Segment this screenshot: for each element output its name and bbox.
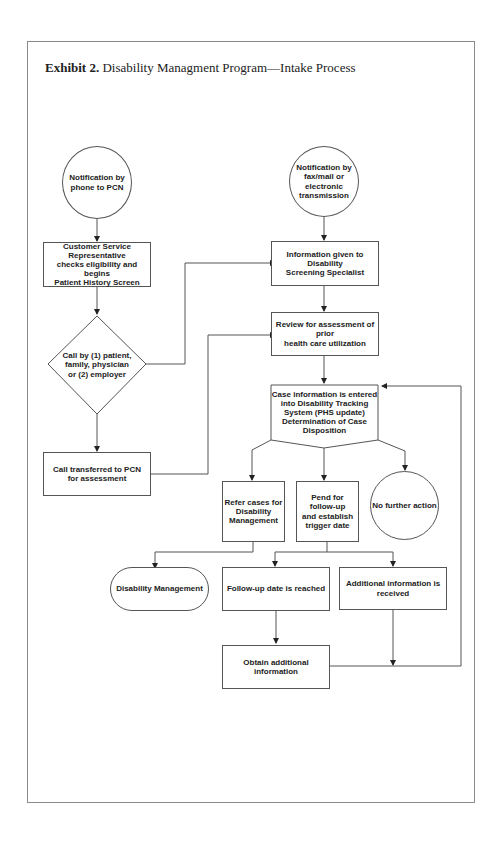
no-action-node: No further action [370,471,439,540]
decision-call-node: Call by (1) patient, family, physician o… [50,345,144,385]
transfer-node: Call transferred to PCN for assessment [43,452,151,496]
start-phone-node: Notification by phone to PCN [62,146,132,219]
csr-node: Customer Service Representative checks e… [43,242,151,287]
obtain-info-node: Obtain additional information [222,645,330,689]
refer-node: Refer cases for Disability Management [222,481,285,542]
pend-node: Pend for follow-up and establish trigger… [296,481,359,542]
additional-received-node: Additional information is received [339,567,447,610]
followup-reached-node: Follow-up date is reached [222,567,330,611]
review-node: Review for assessment of prior health ca… [271,312,379,356]
info-given-node: Information given to Disability Screenin… [271,241,379,286]
case-entered-node: Case information is entered into Disabil… [271,385,378,440]
disability-management-node: Disability Management [110,567,209,611]
start-fax-node: Notification by fax/mail or electronic t… [289,146,359,217]
connector-lines [0,0,501,857]
